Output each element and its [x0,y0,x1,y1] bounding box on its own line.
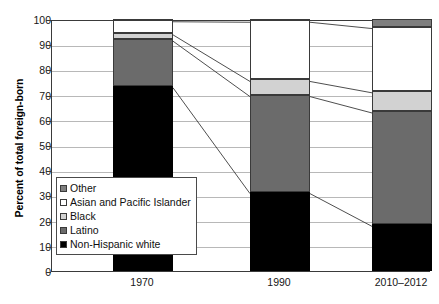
bar-segment-other [372,19,432,27]
bar-segment-black [113,33,173,39]
legend-swatch-icon [60,213,67,220]
legend-swatch-icon [60,241,67,248]
legend-item: Other [60,181,191,195]
legend-item-label: Asian and Pacific Islander [70,197,191,208]
y-axis-tick-mark [46,272,51,273]
y-axis-tick-group: 0102030405060708090100 [14,0,51,304]
legend-swatch-icon [60,227,67,234]
bar-segment-other [250,19,310,21]
bar-segment-latino [250,95,310,192]
bar-segment-latino [113,39,173,86]
legend-item-label: Black [70,211,96,222]
legend-item: Latino [60,223,191,237]
connector-line [173,22,250,23]
connector-line [310,22,372,28]
bar-segment-asian-and-pacific-islander [372,27,432,91]
legend-item: Asian and Pacific Islander [60,195,191,209]
bar-segment-latino [372,111,432,224]
bar-1990 [250,19,310,271]
legend-swatch-icon [60,185,67,192]
legend-item-label: Latino [70,225,99,236]
bar-segment-black [250,79,310,94]
bar-segment-other [113,19,173,21]
bar-2010-2012 [372,19,432,271]
legend-item: Black [60,209,191,223]
legend-item-label: Non-Hispanic white [70,239,160,250]
x-axis-tick-label: 2010–2012 [375,276,428,288]
connector-line [173,35,250,82]
bar-segment-non-hispanic-white [372,224,432,271]
bar-segment-non-hispanic-white [250,192,310,271]
connector-line [310,97,372,113]
legend-item-label: Other [70,183,96,194]
connector-line [310,81,372,92]
bar-segment-asian-and-pacific-islander [250,20,310,79]
legend-swatch-icon [60,199,67,206]
stacked-bar-chart: Percent of total foreign-born 0102030405… [0,0,439,304]
legend-item: Non-Hispanic white [60,237,191,251]
bar-segment-black [372,91,432,111]
x-axis-tick-label: 1970 [130,276,153,288]
x-axis-tick-label: 1990 [267,276,290,288]
chart-legend: OtherAsian and Pacific IslanderBlackLati… [56,177,197,255]
connector-line [173,41,250,96]
bar-segment-asian-and-pacific-islander [113,20,173,33]
